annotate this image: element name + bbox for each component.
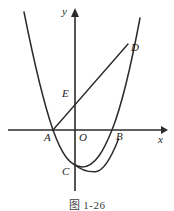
- point-label-E: E: [62, 88, 69, 99]
- y-axis-label: y: [62, 6, 67, 17]
- point-label-A: A: [44, 132, 51, 143]
- x-axis-label: x: [158, 134, 163, 145]
- y-axis-arrowhead: [71, 8, 79, 17]
- point-label-B: B: [116, 131, 123, 142]
- geometry-diagram: [0, 0, 174, 211]
- figure-container: A B C D E O y x 图 1-26: [0, 0, 174, 211]
- point-label-C: C: [62, 166, 69, 177]
- main-parabola-curve: [24, 12, 140, 167]
- point-label-D: D: [131, 42, 139, 53]
- point-label-O: O: [79, 132, 87, 143]
- figure-caption: 图 1-26: [0, 199, 174, 211]
